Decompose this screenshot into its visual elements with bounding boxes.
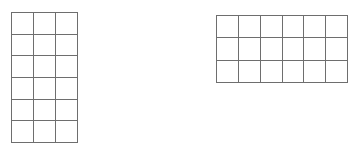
grid-cell (34, 100, 56, 122)
grid-cell (56, 78, 78, 100)
grid-cell (56, 121, 78, 143)
grid-cell (34, 13, 56, 35)
grid-cell (56, 56, 78, 78)
grid-cell (34, 56, 56, 78)
grid-cell (283, 16, 305, 38)
grid-cell (217, 16, 239, 38)
array-grid-3x6 (11, 12, 78, 143)
array-grid-6x3 (216, 15, 348, 83)
grid-cell (12, 13, 34, 35)
grid-cell (56, 100, 78, 122)
grid-cell (12, 35, 34, 57)
grid-cell (326, 61, 348, 83)
grid-cell (283, 38, 305, 60)
grid-cell (34, 35, 56, 57)
grid-cell (304, 16, 326, 38)
grid-cell (239, 61, 261, 83)
grid-cell (239, 16, 261, 38)
grid-cell (56, 35, 78, 57)
grid-cell (217, 61, 239, 83)
grid-cell (56, 13, 78, 35)
grid-cell (12, 121, 34, 143)
grid-cell (261, 16, 283, 38)
grid-cell (261, 38, 283, 60)
grid-cell (217, 38, 239, 60)
grid-cell (12, 56, 34, 78)
grid-cell (304, 38, 326, 60)
grid-cell (261, 61, 283, 83)
grid-cell (304, 61, 326, 83)
grid-cell (239, 38, 261, 60)
grid-cell (34, 78, 56, 100)
grid-cell (326, 16, 348, 38)
grid-cell (34, 121, 56, 143)
grid-cell (12, 78, 34, 100)
grid-cell (12, 100, 34, 122)
grid-cell (326, 38, 348, 60)
worksheet-canvas (0, 0, 356, 159)
grid-cell (283, 61, 305, 83)
